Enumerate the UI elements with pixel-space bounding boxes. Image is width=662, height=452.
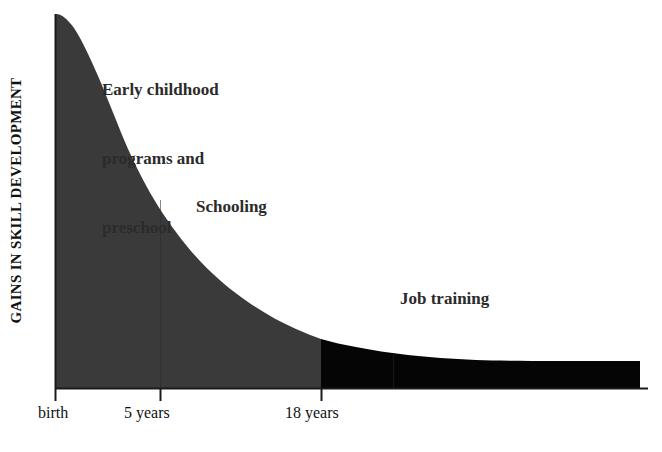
x-tick-label-5-years: 5 years <box>124 404 170 422</box>
annotation-early-childhood-line2: programs and <box>102 147 219 170</box>
x-tick-label-birth: birth <box>38 404 68 422</box>
annotation-early-childhood-line3: preschool <box>102 216 219 239</box>
chart-canvas <box>0 0 662 452</box>
skill-development-chart: GAINS IN SKILL DEVELOPMENT Early childho… <box>0 0 662 452</box>
annotation-early-childhood: Early childhood programs and preschool <box>102 32 219 285</box>
area-job-training <box>321 339 640 388</box>
annotation-schooling: Schooling <box>196 196 267 218</box>
annotation-early-childhood-line1: Early childhood <box>102 78 219 101</box>
x-tick-label-18-years: 18 years <box>285 404 339 422</box>
annotation-job-training: Job training <box>400 288 489 310</box>
